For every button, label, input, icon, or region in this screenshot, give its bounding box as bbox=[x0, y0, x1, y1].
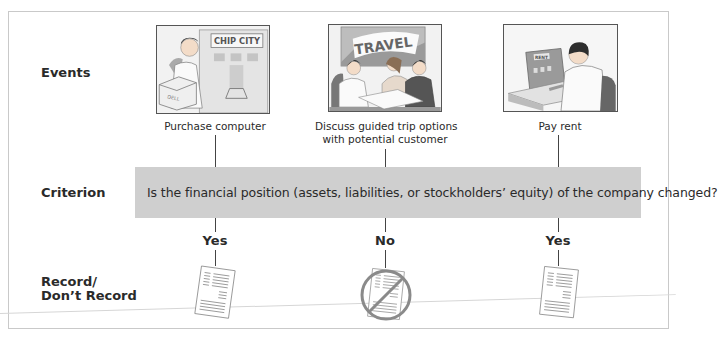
connector-line bbox=[385, 218, 386, 232]
pay-rent-illustration: RENT bbox=[503, 24, 618, 112]
connector-line bbox=[558, 218, 559, 232]
record-document-icon bbox=[189, 264, 239, 320]
events-row-label: Events bbox=[41, 66, 90, 80]
connector-line bbox=[558, 135, 559, 167]
man-with-box-icon: CHIP CITY DELL bbox=[157, 26, 269, 113]
event-caption-discuss-trip-line1: Discuss guided trip options bbox=[315, 120, 455, 133]
record-document-icon bbox=[533, 264, 583, 320]
svg-text:CHIP CITY: CHIP CITY bbox=[214, 36, 261, 46]
event-caption-purchase-computer: Purchase computer bbox=[163, 120, 267, 133]
answer-yes-rent: Yes bbox=[538, 233, 578, 248]
event-caption-discuss-trip-line2: with potential customer bbox=[315, 133, 455, 146]
purchase-computer-illustration: CHIP CITY DELL bbox=[156, 25, 270, 114]
record-row-label: Record/ Don’t Record bbox=[41, 275, 137, 303]
answer-no-discuss: No bbox=[365, 233, 405, 248]
event-caption-discuss-trip: Discuss guided trip options with potenti… bbox=[315, 120, 455, 146]
travel-meeting-illustration: TRAVEL bbox=[328, 24, 442, 112]
record-row-label-line2: Don’t Record bbox=[41, 289, 137, 303]
criterion-question: Is the financial position (assets, liabi… bbox=[147, 185, 718, 200]
record-row-label-line1: Record/ bbox=[41, 275, 137, 289]
connector-line bbox=[215, 218, 216, 232]
travel-meeting-icon: TRAVEL bbox=[329, 25, 441, 111]
criterion-question-box: Is the financial position (assets, liabi… bbox=[135, 167, 641, 218]
svg-text:RENT: RENT bbox=[535, 55, 548, 60]
connector-line bbox=[215, 135, 216, 167]
man-at-computer-icon: RENT bbox=[504, 25, 617, 111]
connector-line bbox=[385, 149, 386, 167]
answer-yes-purchase: Yes bbox=[195, 233, 235, 248]
event-caption-pay-rent: Pay rent bbox=[520, 120, 600, 133]
no-record-prohibited-icon bbox=[358, 265, 414, 323]
criterion-row-label: Criterion bbox=[41, 186, 106, 200]
